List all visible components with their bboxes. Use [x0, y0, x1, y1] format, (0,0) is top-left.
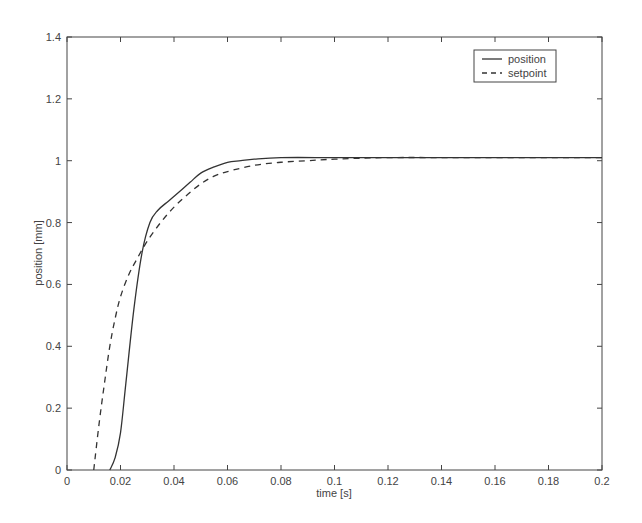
x-tick-label: 0.04: [163, 475, 184, 487]
legend-item-position: position: [508, 53, 546, 65]
y-tick-label: 0: [55, 464, 61, 476]
x-tick-label: 0.12: [377, 475, 398, 487]
legend-item-setpoint: setpoint: [508, 67, 547, 79]
line-chart: 00.020.040.060.080.10.120.140.160.180.20…: [0, 0, 642, 523]
plot-frame: [67, 37, 602, 470]
x-tick-label: 0.2: [594, 475, 609, 487]
x-tick-label: 0.06: [217, 475, 238, 487]
x-tick-label: 0.16: [484, 475, 505, 487]
x-tick-label: 0.08: [270, 475, 291, 487]
y-tick-label: 1: [55, 155, 61, 167]
series-setpoint: [94, 158, 602, 470]
legend: position setpoint: [474, 50, 556, 82]
x-tick-label: 0.18: [538, 475, 559, 487]
y-tick-label: 1.2: [46, 93, 61, 105]
x-axis-label: time [s]: [316, 487, 351, 499]
y-tick-label: 0.2: [46, 402, 61, 414]
y-tick-label: 1.4: [46, 31, 61, 43]
y-tick-label: 0.8: [46, 217, 61, 229]
x-tick-label: 0: [64, 475, 70, 487]
axes: 00.020.040.060.080.10.120.140.160.180.20…: [46, 31, 610, 487]
x-tick-label: 0.14: [431, 475, 452, 487]
y-tick-label: 0.4: [46, 340, 61, 352]
x-tick-label: 0.02: [110, 475, 131, 487]
series-group: [94, 158, 602, 470]
y-axis-label: position [mm]: [32, 220, 44, 285]
x-tick-label: 0.1: [327, 475, 342, 487]
y-tick-label: 0.6: [46, 278, 61, 290]
series-position: [110, 158, 602, 470]
